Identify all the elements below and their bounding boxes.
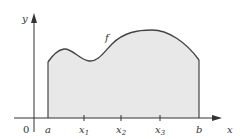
area-under-curve-diagram: y x f 0 a x1 x2 x3 b [0,0,240,139]
tick-label-x2: x2 [116,124,127,137]
tick-label-x3: x3 [155,124,166,137]
tick-label-x1: x1 [79,124,89,137]
tick-label-a: a [45,124,51,135]
shaded-area [48,30,199,118]
x-axis-label: x [227,124,233,135]
y-axis-arrow-icon [31,13,37,23]
origin-label: 0 [23,124,29,135]
tick-label-b: b [196,124,202,135]
x-axis-arrow-icon [212,115,222,121]
function-label: f [104,32,111,43]
y-axis-label: y [21,13,28,24]
